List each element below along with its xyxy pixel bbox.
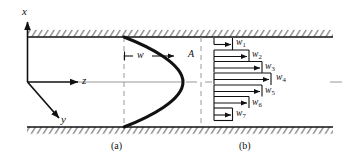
velocity-arrow-3: [214, 62, 262, 74]
velocity-label-7-sub: 7: [243, 112, 246, 119]
velocity-arrow-4: [214, 73, 271, 85]
figure-container: x z y w A (a) (b) w1 w2 w3 w4 w5 w6 w7: [0, 0, 350, 159]
velocity-label-7: w7: [236, 109, 246, 119]
top-wall: [27, 30, 333, 38]
panel-a-caption: (a): [111, 141, 122, 151]
bottom-wall: [27, 127, 333, 134]
y-axis-arrow: [28, 82, 60, 118]
velocity-label-4-text: w: [276, 72, 282, 82]
velocity-label-3: w3: [265, 62, 275, 72]
velocity-label-5: w5: [265, 86, 275, 96]
velocity-label-1-text: w: [236, 37, 242, 47]
velocity-label-1-sub: 1: [243, 41, 246, 48]
velocity-label-2-sub: 2: [259, 53, 262, 60]
velocity-label-6: w6: [252, 98, 262, 108]
velocity-label-4: w4: [276, 73, 286, 83]
section-a-label: A: [188, 49, 194, 59]
y-axis-label: y: [61, 114, 66, 125]
velocity-label-6-sub: 6: [259, 101, 262, 108]
diagram-canvas: [0, 0, 350, 159]
velocity-label-1: w1: [236, 38, 246, 48]
panel-b-caption: (b): [239, 141, 251, 151]
velocity-label-5-sub: 5: [272, 89, 275, 96]
velocity-label-6-text: w: [252, 97, 258, 107]
z-axis-label: z: [82, 75, 86, 86]
w-velocity-label: w: [137, 50, 144, 60]
velocity-arrow-2: [214, 50, 249, 62]
x-axis-label: x: [22, 6, 27, 17]
velocity-label-4-sub: 4: [283, 76, 286, 83]
velocity-arrow-1: [214, 38, 233, 50]
velocity-label-7-text: w: [236, 108, 242, 118]
velocity-label-3-text: w: [265, 61, 271, 71]
velocity-label-5-text: w: [265, 85, 271, 95]
velocity-arrow-7: [214, 108, 233, 121]
velocity-label-2: w2: [252, 50, 262, 60]
velocity-label-3-sub: 3: [272, 65, 275, 72]
velocity-arrow-6: [214, 97, 249, 109]
velocity-label-2-text: w: [252, 49, 258, 59]
velocity-arrow-5: [214, 85, 262, 97]
